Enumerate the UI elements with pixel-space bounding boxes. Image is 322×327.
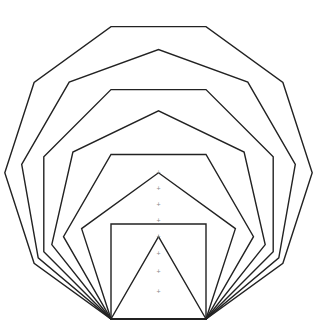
polygon-3-sides <box>111 237 206 319</box>
polygon-5-sides <box>82 173 236 319</box>
center-marks-group: ++++++++ <box>156 169 160 295</box>
center-mark-10: + <box>156 169 160 176</box>
polygon-diagram: ++++++++ <box>0 0 322 327</box>
center-mark-9: + <box>156 185 160 192</box>
center-mark-7: + <box>156 217 160 224</box>
center-mark-3: + <box>156 288 160 295</box>
center-mark-6: + <box>156 233 160 240</box>
center-mark-5: + <box>156 250 160 257</box>
center-mark-4: + <box>156 268 160 275</box>
center-mark-8: + <box>156 201 160 208</box>
